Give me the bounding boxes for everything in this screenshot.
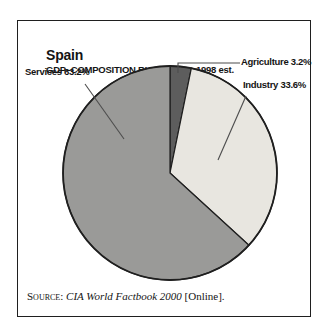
label-agriculture: Agriculture 3.2% [241, 56, 311, 67]
chart-title: Spain [46, 47, 83, 63]
source-suffix: [Online]. [182, 290, 225, 302]
figure-page: { "header": { "title": "Spain", "subtitl… [0, 0, 329, 335]
source-work-title: CIA World Factbook 2000 [66, 290, 182, 302]
label-industry: Industry 33.6% [243, 79, 306, 90]
label-services: Services 63.2% [25, 66, 89, 77]
source-prefix: Source: [27, 290, 66, 302]
source-citation: Source: CIA World Factbook 2000 [Online]… [27, 290, 225, 302]
